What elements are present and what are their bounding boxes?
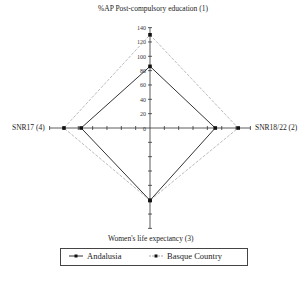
data-point-marker [213, 126, 217, 130]
tick-label: 140 [137, 25, 146, 31]
legend-label: Basque Country [167, 251, 222, 261]
axis-label-left: SNR17 (4) [12, 123, 45, 132]
tick-label: 100 [137, 54, 146, 60]
axis-label-top: %AP Post-compulsory education (1) [98, 4, 208, 13]
axis-label-right: SNR18/22 (2) [255, 123, 297, 132]
line-marker-icon [69, 252, 83, 260]
data-point-marker [62, 126, 66, 130]
legend: Andalusia Basque Country [60, 248, 248, 266]
legend-item-basque-country: Basque Country [149, 251, 222, 261]
legend-item-andalusia: Andalusia [69, 251, 121, 261]
data-point-marker [148, 199, 152, 203]
data-point-marker [148, 65, 152, 69]
series-andalusia [81, 66, 215, 200]
series-basque-country [64, 35, 238, 201]
tick-label: 40 [140, 97, 146, 103]
data-point-marker [148, 33, 152, 37]
tick-label: 60 [140, 82, 146, 88]
line-marker-icon [149, 252, 163, 260]
legend-label: Andalusia [87, 251, 121, 261]
tick-label: 20 [140, 111, 146, 117]
data-point-marker [79, 126, 83, 130]
data-point-marker [236, 126, 240, 130]
tick-label: 0 [143, 126, 146, 132]
axis-label-bottom: Women's life expectancy (3) [108, 234, 194, 243]
